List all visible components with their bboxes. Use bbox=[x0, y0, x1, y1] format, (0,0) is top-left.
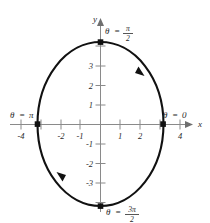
x-tick-label-2: 2 bbox=[138, 131, 143, 141]
theta-3pi-over-2-denominator: 2 bbox=[130, 215, 134, 223]
annotation-theta-0: θ = 0 bbox=[163, 110, 187, 120]
theta-3pi-over-2-equals: = bbox=[115, 207, 121, 217]
theta-pi-over-2-symbol: θ bbox=[105, 26, 110, 36]
theta-pi-symbol: θ bbox=[10, 110, 15, 120]
vertex-point-theta-pi bbox=[35, 121, 41, 127]
x-tick-label-4: 4 bbox=[178, 131, 183, 141]
y-tick-label--2: -2 bbox=[86, 159, 94, 169]
theta-pi-equals: = bbox=[19, 110, 25, 120]
theta-0-value: 0 bbox=[182, 110, 187, 120]
annotation-theta-pi: θ = π bbox=[10, 110, 34, 120]
parametric-ellipse-figure: -4 -2 -1 1 2 4 3 2 1 -1 -2 -3 x bbox=[0, 0, 210, 223]
direction-arrowhead-upper-right bbox=[135, 67, 145, 77]
x-tick-label--2: -2 bbox=[57, 131, 65, 141]
direction-arrowhead-lower-left bbox=[57, 172, 67, 182]
theta-pi-over-2-equals: = bbox=[114, 26, 120, 36]
x-axis-label: x bbox=[197, 119, 202, 129]
y-axis-label: y bbox=[92, 14, 97, 24]
plot-canvas: -4 -2 -1 1 2 4 3 2 1 -1 -2 -3 x bbox=[0, 0, 210, 223]
vertex-point-theta-0 bbox=[160, 121, 166, 127]
y-tick-label--1: -1 bbox=[86, 139, 93, 149]
y-axis-arrowhead bbox=[97, 18, 104, 26]
theta-0-symbol: θ bbox=[163, 110, 168, 120]
x-tick-label--4: -4 bbox=[17, 131, 25, 141]
theta-0-equals: = bbox=[172, 110, 178, 120]
theta-pi-value: π bbox=[29, 110, 34, 120]
y-tick-label-1: 1 bbox=[89, 100, 93, 110]
x-tick-label-1: 1 bbox=[118, 131, 122, 141]
theta-pi-over-2-denominator: 2 bbox=[126, 34, 130, 43]
annotation-theta-pi-over-2: θ = π 2 bbox=[105, 24, 133, 43]
theta-pi-over-2-numerator: π bbox=[126, 24, 130, 33]
annotation-theta-3pi-over-2: θ = 3π 2 bbox=[106, 205, 139, 223]
vertex-point-theta-pi-over-2 bbox=[98, 39, 104, 45]
x-tick-label--1: -1 bbox=[76, 131, 83, 141]
theta-3pi-over-2-numerator: 3π bbox=[127, 205, 136, 214]
y-tick-label-2: 2 bbox=[89, 81, 94, 91]
vertex-point-theta-3pi-over-2 bbox=[98, 203, 104, 209]
y-tick-label-3: 3 bbox=[88, 61, 93, 71]
theta-3pi-over-2-symbol: θ bbox=[106, 207, 111, 217]
x-axis-arrowhead bbox=[185, 121, 193, 128]
y-tick-label--3: -3 bbox=[86, 178, 93, 188]
